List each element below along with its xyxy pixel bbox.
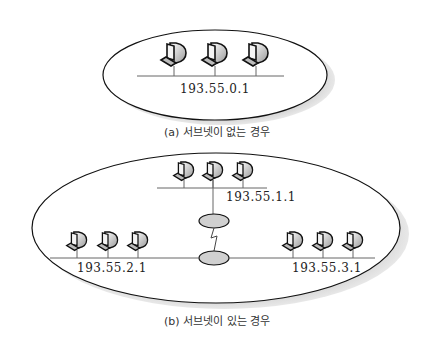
- subnet-right-address: 193.55.3.1: [292, 261, 362, 275]
- subnet-top-address: 193.55.1.1: [226, 190, 296, 204]
- caption-b: (b) 서브넷이 있는 경우: [164, 315, 270, 328]
- subnet-left-address: 193.55.2.1: [77, 261, 147, 275]
- router-bottom: [199, 251, 229, 265]
- figure-a: 193.55.0.1: [103, 30, 335, 125]
- caption-a: (a) 서브넷이 없는 경우: [164, 126, 270, 139]
- network-a-address: 193.55.0.1: [180, 82, 250, 96]
- figure-b: 193.55.1.1 193.55.2.1: [32, 153, 409, 309]
- router-top: [199, 214, 229, 228]
